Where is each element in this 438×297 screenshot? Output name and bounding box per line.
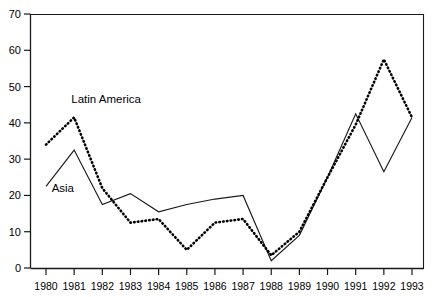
series-line-latin-america [46,59,412,255]
y-tick-label: 30 [9,153,21,165]
y-axis-ticks: 010203040506070 [9,8,31,274]
y-tick-label: 40 [9,117,21,129]
y-tick-label: 0 [15,262,21,274]
y-tick-label: 60 [9,44,21,56]
x-tick-label: 1990 [316,280,340,292]
chart-plot-area: 010203040506070 198019811982198319841985… [0,0,438,297]
x-tick-label: 1985 [175,280,199,292]
x-tick-label: 1982 [91,280,115,292]
x-tick-label: 1981 [62,280,86,292]
series-annotations: Latin AmericaAsia [52,93,142,194]
data-series-layer [46,59,412,260]
x-tick-label: 1992 [372,280,396,292]
line-chart-figure: 010203040506070 198019811982198319841985… [0,0,438,297]
x-tick-label: 1989 [288,280,312,292]
axis-frame [31,14,425,269]
x-tick-label: 1988 [260,280,284,292]
y-tick-label: 50 [9,81,21,93]
x-axis-ticks: 1980198119821983198419851986198719881989… [34,269,424,293]
x-tick-label: 1993 [400,280,424,292]
series-annotation-asia: Asia [52,182,75,194]
x-tick-label: 1983 [119,280,143,292]
y-tick-label: 20 [9,189,21,201]
y-tick-label: 70 [9,8,21,20]
x-tick-label: 1984 [147,280,171,292]
x-tick-label: 1986 [203,280,227,292]
y-tick-label: 10 [9,226,21,238]
series-annotation-latin-america: Latin America [71,93,141,105]
x-tick-label: 1991 [344,280,368,292]
x-tick-label: 1980 [34,280,58,292]
x-tick-label: 1987 [231,280,255,292]
